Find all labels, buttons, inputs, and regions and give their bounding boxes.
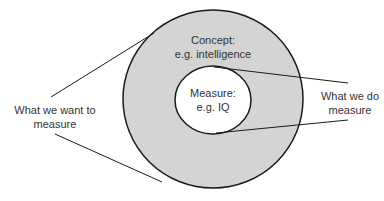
left-callout-line1: What we want to — [5, 103, 105, 117]
right-callout-label: What we do measure — [316, 89, 384, 117]
concept-label: Concept: e.g. intelligence — [163, 33, 263, 61]
measure-label: Measure: e.g. IQ — [173, 86, 253, 114]
left-callout-label: What we want to measure — [5, 103, 105, 131]
left-callout-line2: measure — [5, 117, 105, 131]
measure-example: e.g. IQ — [173, 100, 253, 114]
measure-title: Measure: — [173, 86, 253, 100]
concept-example: e.g. intelligence — [163, 47, 263, 61]
right-callout-line1: What we do — [316, 89, 384, 103]
right-callout-line2: measure — [316, 103, 384, 117]
concept-title: Concept: — [163, 33, 263, 47]
